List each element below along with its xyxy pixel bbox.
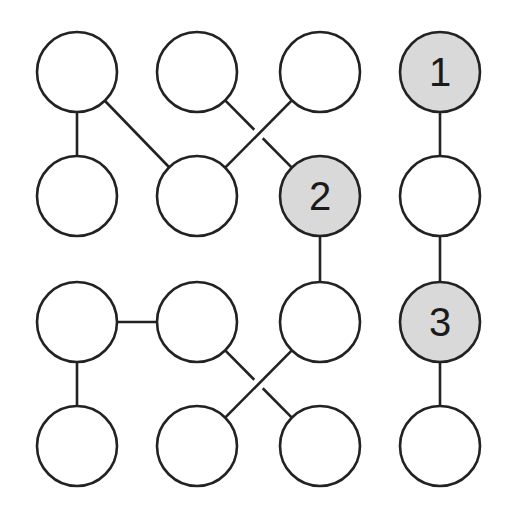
node-n30 — [37, 406, 117, 486]
node-circle — [157, 32, 237, 112]
node-label: 2 — [309, 174, 331, 218]
graph-diagram: 123 — [0, 0, 522, 516]
node-n02 — [280, 32, 360, 112]
node-circle — [400, 406, 480, 486]
node-n31 — [157, 406, 237, 486]
edge-n01-n12 — [263, 138, 292, 167]
node-circle — [280, 282, 360, 362]
node-layer: 123 — [37, 32, 480, 486]
node-label: 3 — [429, 300, 451, 344]
node-circle — [37, 32, 117, 112]
edge-layer — [77, 100, 440, 417]
node-circle — [400, 156, 480, 236]
node-circle — [157, 282, 237, 362]
node-n10 — [37, 156, 117, 236]
graph-canvas: 123 — [0, 0, 522, 516]
node-circle — [157, 406, 237, 486]
node-n03: 1 — [400, 32, 480, 112]
node-circle — [157, 156, 237, 236]
node-n01 — [157, 32, 237, 112]
edge-n00-n11 — [105, 101, 169, 168]
node-circle — [280, 32, 360, 112]
node-n32 — [280, 406, 360, 486]
edge-n21-n32 — [263, 388, 292, 417]
node-n12: 2 — [280, 156, 360, 236]
node-n23: 3 — [400, 282, 480, 362]
node-n22 — [280, 282, 360, 362]
node-n21 — [157, 282, 237, 362]
node-circle — [37, 156, 117, 236]
node-n20 — [37, 282, 117, 362]
edge-n01-n12 — [225, 100, 254, 129]
edge-n21-n32 — [225, 350, 254, 379]
node-n13 — [400, 156, 480, 236]
node-circle — [37, 282, 117, 362]
node-n33 — [400, 406, 480, 486]
node-n00 — [37, 32, 117, 112]
node-label: 1 — [429, 50, 451, 94]
node-n11 — [157, 156, 237, 236]
node-circle — [37, 406, 117, 486]
node-circle — [280, 406, 360, 486]
